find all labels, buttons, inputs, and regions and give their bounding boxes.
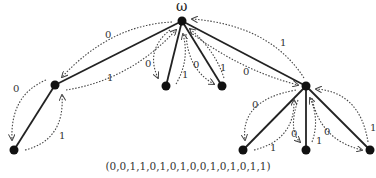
label-root-L-down: 0 <box>105 29 111 40</box>
arc-root-M2-down <box>186 34 214 84</box>
label-M2-root-up: 1 <box>220 62 226 73</box>
node-root <box>178 17 187 26</box>
node-R1 <box>239 146 248 155</box>
sequence-caption: (0,0,1,1,0,1,0,1,0,0,1,0,1,0,1,1) <box>0 160 376 172</box>
node-M2 <box>218 82 227 91</box>
arc-L-root-up <box>66 30 176 90</box>
node-R <box>302 82 311 91</box>
root-label: ω <box>176 0 187 14</box>
tree-edges <box>14 21 370 150</box>
label-R-R1-down: 0 <box>252 99 258 110</box>
tree-traversal-diagram: 0 1 0 1 0 1 0 1 0 1 0 1 0 1 0 1 ω <box>0 0 376 178</box>
label-M1-root-up: 1 <box>182 69 188 80</box>
label-R-root-up: 1 <box>280 37 286 48</box>
label-R1-R-up: 1 <box>270 142 276 153</box>
label-R2-R-up: 1 <box>316 135 322 146</box>
arc-R2-R-up <box>310 98 316 142</box>
node-R2 <box>302 146 311 155</box>
label-R-R3-down: 0 <box>324 126 330 137</box>
label-root-M1-down: 0 <box>145 58 151 69</box>
label-root-M2-down: 0 <box>193 59 199 70</box>
label-root-R-down: 0 <box>243 66 249 77</box>
edge-root-M1 <box>166 21 182 86</box>
label-L-root-up: 1 <box>107 72 113 83</box>
edge-L-LL <box>14 85 55 150</box>
node-R3 <box>366 146 375 155</box>
label-R3-R-up: 1 <box>370 122 376 133</box>
arc-R-R1-down <box>245 90 296 140</box>
node-M1 <box>162 82 171 91</box>
arc-labels: 0 1 0 1 0 1 0 1 0 1 0 1 0 1 0 1 <box>13 29 376 153</box>
node-L <box>51 81 60 90</box>
label-R-R2-down: 0 <box>291 128 297 139</box>
arc-root-M1-down <box>154 30 170 78</box>
edge-root-L <box>55 21 182 85</box>
label-L-LL-down: 0 <box>13 83 19 94</box>
node-LL <box>10 146 19 155</box>
label-LL-L-up: 1 <box>59 130 65 141</box>
